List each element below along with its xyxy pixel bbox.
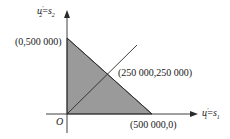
y-axis-sub2: 2 (52, 12, 55, 18)
x-axis-label: u′1=s1 (202, 107, 220, 120)
utility-possibility-diagram: u′2=s2 u′1=s1 (0,500 000) (250 000,250 0… (0, 0, 230, 139)
midpoint-label: (250 000,250 000) (118, 68, 192, 78)
x-axis-sub2: 1 (217, 114, 220, 120)
origin-label: O (56, 117, 63, 127)
y-axis-label: u′2=s2 (37, 5, 55, 18)
x-axis-arrow-icon (190, 111, 198, 117)
x-intercept-label: (500 000,0) (130, 120, 177, 130)
diagram-canvas (0, 0, 230, 139)
y-axis-arrow-icon (64, 10, 70, 18)
y-intercept-label: (0,500 000) (15, 37, 62, 47)
